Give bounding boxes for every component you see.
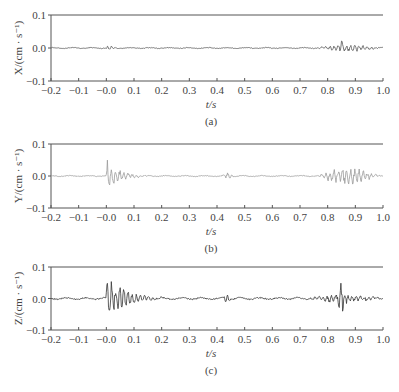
x-tick-label: 1.0 xyxy=(376,211,390,223)
x-tick-label: 0.1 xyxy=(127,84,141,96)
x-tick-label: 0.6 xyxy=(265,333,279,345)
x-tick-label: 0.3 xyxy=(182,84,196,96)
x-tick-label: 0.7 xyxy=(293,211,307,223)
x-tick-label: 0.4 xyxy=(210,333,224,345)
x-tick-label: 0.2 xyxy=(155,84,169,96)
y-axis-title: X/(cm · s⁻¹) xyxy=(12,21,25,76)
signal-trace xyxy=(51,160,383,185)
x-tick-label: −0.1 xyxy=(69,333,89,345)
signal-trace xyxy=(51,41,383,51)
x-tick-label: 0.8 xyxy=(321,211,335,223)
x-tick-label: 0.1 xyxy=(127,333,141,345)
x-tick-label: 0.5 xyxy=(238,333,252,345)
x-tick-label: −0.0 xyxy=(96,333,116,345)
y-tick-label: 0.1 xyxy=(32,138,46,150)
x-tick-label: 1.0 xyxy=(376,333,390,345)
x-axis-title: t/s xyxy=(206,98,216,110)
panel-a-x-velocity: −0.10.00.1−0.2−0.1−0.00.10.20.30.40.50.6… xyxy=(12,9,390,128)
x-tick-label: 0.1 xyxy=(127,211,141,223)
x-tick-label: −0.0 xyxy=(96,84,116,96)
x-tick-label: 0.4 xyxy=(210,211,224,223)
x-tick-label: 0.6 xyxy=(265,211,279,223)
x-tick-label: 0.3 xyxy=(182,211,196,223)
panel-caption: (c) xyxy=(205,364,218,377)
y-tick-label: 0.1 xyxy=(32,261,46,273)
x-tick-label: 0.9 xyxy=(348,211,362,223)
x-tick-label: −0.1 xyxy=(69,84,89,96)
y-tick-label: 0.0 xyxy=(32,170,46,182)
y-tick-label: 0.0 xyxy=(32,293,46,305)
x-tick-label: −0.2 xyxy=(41,211,61,223)
y-axis-title: Z/(cm · s⁻¹) xyxy=(12,272,25,325)
panel-caption: (b) xyxy=(205,242,218,255)
x-tick-label: 0.7 xyxy=(293,333,307,345)
x-tick-label: 0.7 xyxy=(293,84,307,96)
x-tick-label: 1.0 xyxy=(376,84,390,96)
figure: −0.10.00.1−0.2−0.1−0.00.10.20.30.40.50.6… xyxy=(0,0,399,392)
x-tick-label: 0.4 xyxy=(210,84,224,96)
x-tick-label: 0.9 xyxy=(348,333,362,345)
y-tick-label: 0.0 xyxy=(32,42,46,54)
x-tick-label: 0.9 xyxy=(348,84,362,96)
y-tick-label: 0.1 xyxy=(32,9,46,21)
x-tick-label: 0.6 xyxy=(265,84,279,96)
x-tick-label: 0.5 xyxy=(238,84,252,96)
x-tick-label: 0.8 xyxy=(321,84,335,96)
x-tick-label: −0.2 xyxy=(41,333,61,345)
x-tick-label: 0.5 xyxy=(238,211,252,223)
x-tick-label: −0.2 xyxy=(41,84,61,96)
x-axis-title: t/s xyxy=(206,225,216,237)
x-axis-title: t/s xyxy=(206,347,216,359)
signal-trace xyxy=(51,282,383,312)
panel-c-z-velocity: −0.10.00.1−0.2−0.1−0.00.10.20.30.40.50.6… xyxy=(12,261,390,377)
y-axis-title: Y/(cm · s⁻¹) xyxy=(12,149,25,204)
x-tick-label: 0.2 xyxy=(155,211,169,223)
panel-b-y-velocity: −0.10.00.1−0.2−0.1−0.00.10.20.30.40.50.6… xyxy=(12,138,390,255)
x-tick-label: 0.2 xyxy=(155,333,169,345)
x-tick-label: −0.1 xyxy=(69,211,89,223)
x-tick-label: −0.0 xyxy=(96,211,116,223)
x-tick-label: 0.8 xyxy=(321,333,335,345)
panel-caption: (a) xyxy=(205,115,218,128)
x-tick-label: 0.3 xyxy=(182,333,196,345)
